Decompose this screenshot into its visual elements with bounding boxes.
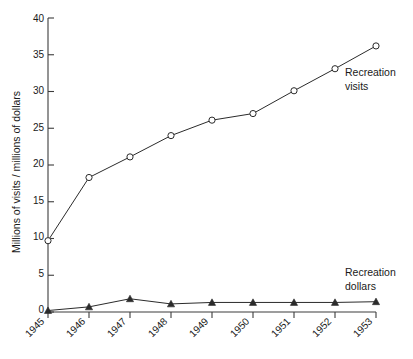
x-tick-label: 1949 bbox=[187, 315, 211, 339]
data-point-marker bbox=[45, 238, 51, 244]
data-point-marker bbox=[373, 43, 379, 49]
series-label-line: visits bbox=[345, 80, 368, 92]
x-tick-labels: 1945 1946 1947 1948 1949 1950 1951 1952 … bbox=[23, 315, 375, 339]
data-point-marker bbox=[127, 154, 133, 160]
y-tick-label: 35 bbox=[33, 49, 45, 60]
series-line bbox=[48, 46, 376, 241]
x-tick-label: 1946 bbox=[64, 315, 88, 339]
y-tick-label: 25 bbox=[33, 122, 45, 133]
data-point-marker bbox=[291, 88, 297, 94]
line-chart-plot: Millions of visits / millions of dollars… bbox=[0, 0, 413, 359]
y-tick-marks bbox=[48, 18, 54, 312]
series-markers bbox=[44, 295, 379, 313]
y-tick-label: 30 bbox=[33, 85, 45, 96]
y-tick-labels: 40 35 30 25 20 15 10 5 0 bbox=[33, 13, 45, 315]
series-label-recreation-visits: Recreation visits bbox=[345, 66, 396, 92]
data-point-marker bbox=[209, 117, 215, 123]
series-recreation-dollars bbox=[44, 295, 379, 313]
series-label-line: Recreation bbox=[345, 66, 396, 78]
series-label-recreation-dollars: Recreation dollars bbox=[345, 266, 396, 292]
x-tick-label: 1951 bbox=[269, 315, 293, 339]
y-axis-title: Millions of visits / millions of dollars bbox=[10, 91, 22, 253]
y-tick-label: 15 bbox=[33, 195, 45, 206]
y-tick-label: 40 bbox=[33, 13, 45, 24]
y-tick-label: 5 bbox=[38, 268, 44, 279]
data-point-marker bbox=[86, 174, 92, 180]
series-recreation-visits bbox=[45, 43, 379, 244]
x-tick-label: 1945 bbox=[23, 315, 47, 339]
data-point-marker bbox=[250, 110, 256, 116]
y-tick-label: 20 bbox=[33, 158, 45, 169]
data-point-marker bbox=[168, 133, 174, 139]
chart-figure: Millions of visits / millions of dollars… bbox=[0, 0, 413, 359]
x-tick-label: 1947 bbox=[105, 315, 129, 339]
data-point-marker bbox=[126, 295, 133, 302]
x-tick-label: 1950 bbox=[228, 315, 252, 339]
series-label-line: Recreation bbox=[345, 266, 396, 278]
series-markers bbox=[45, 43, 379, 244]
y-tick-label: 10 bbox=[33, 231, 45, 242]
data-point-marker bbox=[332, 66, 338, 72]
x-tick-label: 1948 bbox=[146, 315, 170, 339]
x-tick-label: 1952 bbox=[310, 315, 334, 339]
x-tick-label: 1953 bbox=[351, 315, 375, 339]
y-tick-label: 0 bbox=[38, 304, 44, 315]
series-label-line: dollars bbox=[345, 280, 376, 292]
